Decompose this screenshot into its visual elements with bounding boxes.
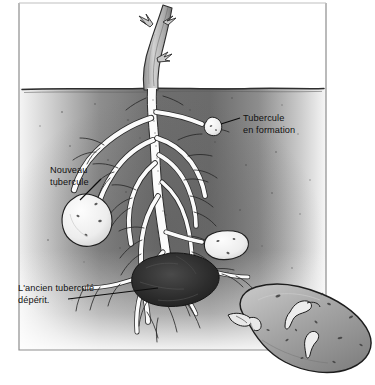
potato-plant-diagram: Tubercule en formation Nouveau tubercule… [0,0,375,385]
callout-nouveau-tubercule: Nouveau tubercule [50,165,90,187]
tuber-new-right [204,231,248,260]
figure-container: Tubercule en formation Nouveau tubercule… [0,0,375,385]
tuber-new-large [62,194,112,246]
plant-stem [139,5,176,90]
tuber-forming [204,117,222,135]
